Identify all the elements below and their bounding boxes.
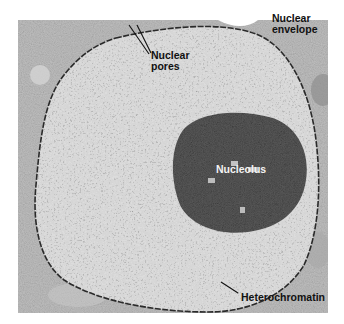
label-nuclear-pores: Nuclear pores bbox=[151, 50, 190, 72]
label-nucleolus: Nucleolus bbox=[216, 164, 266, 175]
label-nuclear-envelope-line2: envelope bbox=[272, 24, 318, 35]
label-nuclear-pores-line2: pores bbox=[151, 61, 190, 72]
micrograph-figure: Nuclear pores Nuclear envelope Nucleolus… bbox=[0, 0, 344, 324]
label-heterochromatin: Heterochromatin bbox=[241, 292, 325, 303]
label-nuclear-envelope: Nuclear envelope bbox=[272, 13, 318, 35]
